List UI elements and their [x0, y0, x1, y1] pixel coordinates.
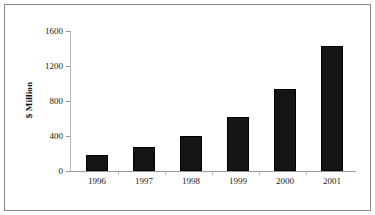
- y-axis-label-400: 400: [23, 132, 63, 141]
- bar-1997: [133, 147, 155, 171]
- y-axis-label-1200: 1200: [23, 62, 63, 71]
- x-axis-label-2000: 2000: [262, 176, 308, 187]
- x-axis-line: [70, 171, 356, 172]
- x-axis-tick-1: [118, 171, 119, 175]
- bar-1999: [227, 117, 249, 171]
- y-axis-label-0: 0: [23, 167, 63, 176]
- x-axis-tick-5: [306, 171, 307, 175]
- x-axis-label-1999: 1999: [215, 176, 261, 187]
- x-axis-tick-2: [165, 171, 166, 175]
- bar-1996: [86, 155, 108, 171]
- bar-chart-figure: $ Million 1600 1200 800 400 0 1996 1997 …: [0, 0, 375, 215]
- bar-1998: [180, 136, 202, 171]
- x-axis-label-1997: 1997: [121, 176, 167, 187]
- x-axis-tick-3: [212, 171, 213, 175]
- y-axis-label-800: 800: [23, 97, 63, 106]
- x-axis-tick-4: [259, 171, 260, 175]
- x-axis-label-2001: 2001: [309, 176, 355, 187]
- y-axis-tick-1200: [66, 66, 71, 67]
- bar-2001: [321, 46, 343, 171]
- y-axis-tick-800: [66, 101, 71, 102]
- y-axis-tick-1600: [66, 31, 71, 32]
- x-axis-label-1998: 1998: [168, 176, 214, 187]
- y-axis-tick-400: [66, 136, 71, 137]
- bar-2000: [274, 89, 296, 171]
- y-axis-label-1600: 1600: [23, 27, 63, 36]
- x-axis-label-1996: 1996: [74, 176, 120, 187]
